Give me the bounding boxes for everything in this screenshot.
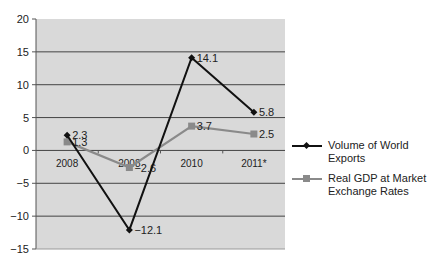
data-label: 5.8 xyxy=(259,106,274,118)
square-marker-icon xyxy=(303,175,310,182)
y-tick-label: 10 xyxy=(17,79,29,91)
legend-item-world-exports: Volume of World Exports xyxy=(292,139,430,165)
legend-label: Real GDP at Market xyxy=(328,172,426,184)
x-tick-label: 2011* xyxy=(241,158,267,169)
y-tick-label: 5 xyxy=(23,112,29,124)
data-label: 2.3 xyxy=(72,129,87,141)
y-tick-label: 0 xyxy=(23,144,29,156)
legend-label: Volume of World Exports xyxy=(328,139,409,164)
data-label: 2.5 xyxy=(259,128,274,140)
line-chart: 20151050−5−10−152008200820102011*1.3−2.6… xyxy=(0,0,430,267)
y-tick-label: −5 xyxy=(16,177,29,189)
y-tick-label: 20 xyxy=(17,13,29,25)
y-tick-label: −10 xyxy=(10,210,29,222)
data-label: 3.7 xyxy=(197,120,212,132)
diamond-marker-icon xyxy=(303,142,310,149)
square-marker-icon xyxy=(188,123,195,130)
data-label: 14.1 xyxy=(197,52,218,64)
x-tick-label: 2010 xyxy=(181,158,204,169)
data-label: −12.1 xyxy=(134,224,162,236)
legend-item-real-gdp: Real GDP at Market Exchange Rates xyxy=(292,172,426,198)
chart-legend: Volume of World Exports xyxy=(292,139,430,165)
y-tick-label: 15 xyxy=(17,46,29,58)
square-marker-icon xyxy=(250,131,257,138)
chart-legend-2: Real GDP at Market Exchange Rates xyxy=(292,172,426,198)
square-marker-icon xyxy=(126,164,133,171)
legend-label: Exchange Rates xyxy=(328,185,409,197)
x-tick-label: 2008 xyxy=(56,158,79,169)
y-tick-label: −15 xyxy=(10,243,29,255)
